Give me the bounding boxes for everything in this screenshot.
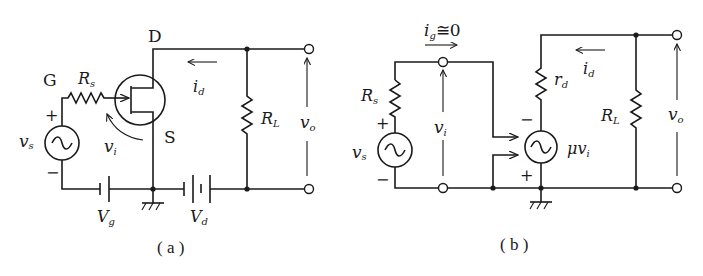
rs-label-a: Rs <box>77 69 95 89</box>
vo-label-a: vo <box>300 112 316 133</box>
rs-resistor-b <box>390 80 400 133</box>
input-terminal-bottom <box>439 184 448 193</box>
input-terminal-top <box>439 58 448 67</box>
vs-label-b: vs <box>352 142 367 162</box>
vd-label: Vd <box>190 207 208 227</box>
vi-label-a: vi <box>104 136 117 157</box>
vs-minus-b: − <box>376 170 389 189</box>
rl-label-a: RL <box>260 109 280 129</box>
vi-label-b: vi <box>434 117 447 138</box>
dep-source-minus: − <box>520 110 533 129</box>
id-label-b: id <box>583 59 595 79</box>
vs-ac-source-b <box>378 133 412 167</box>
bottom-wire-b <box>395 167 673 188</box>
vg-battery <box>100 176 109 202</box>
rl-resistor-b <box>631 35 641 188</box>
dep-source-plus: + <box>520 166 533 185</box>
output-terminal-bottom-a <box>305 185 314 194</box>
input-top-wire <box>395 62 518 137</box>
control-wire-bottom <box>493 155 518 188</box>
output-terminal-top-a <box>305 45 314 54</box>
vs-minus-a: − <box>46 163 59 182</box>
rd-label: rd <box>554 70 568 90</box>
id-label-a: id <box>193 77 205 97</box>
rs-label-b: Rs <box>360 86 378 106</box>
gate-label: G <box>43 70 57 90</box>
output-terminal-bottom-b <box>673 184 682 193</box>
output-terminal-top-b <box>673 31 682 40</box>
drain-label: D <box>148 26 162 46</box>
source-label: S <box>164 127 176 147</box>
ig-label: ig≅0 <box>424 20 461 41</box>
vs-ac-source <box>45 126 79 160</box>
vd-battery <box>184 175 210 203</box>
caption-a: ( a ) <box>157 238 184 257</box>
vs-plus-b: + <box>376 114 389 133</box>
drain-wire <box>153 49 305 75</box>
mu-vi-label: μvi <box>567 139 590 159</box>
panel-a: D G S Rs RL vs vi vo id Vg Vd + − ( a ) <box>19 26 316 257</box>
ground-symbol-a <box>142 189 164 210</box>
panel-b: ig≅0 Rs rd RL vs vi vo id μvi + − − + ( … <box>352 20 684 254</box>
rl-label-b: RL <box>600 106 620 126</box>
bottom-wire-left <box>62 160 100 189</box>
dependent-source-mu-vi <box>525 131 557 163</box>
ground-symbol-b <box>530 202 552 209</box>
jfet-transistor <box>105 75 165 125</box>
rl-resistor-a <box>242 49 252 189</box>
rs-resistor <box>62 93 105 126</box>
caption-b: ( b ) <box>500 235 528 254</box>
vo-label-b: vo <box>668 104 684 125</box>
vg-label: Vg <box>97 207 115 227</box>
circuit-figure: D G S Rs RL vs vi vo id Vg Vd + − ( a ) <box>0 0 703 276</box>
vs-plus-a: + <box>45 106 58 125</box>
vs-label-a: vs <box>19 131 34 151</box>
